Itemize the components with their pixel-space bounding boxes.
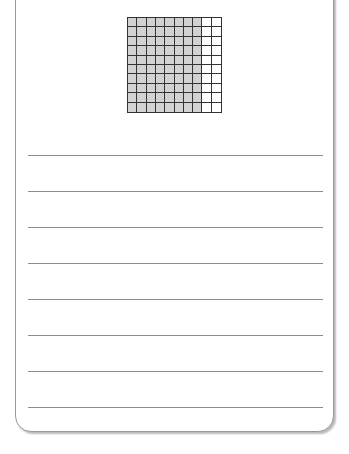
grid-cell-shaded <box>156 65 165 74</box>
grid-cell-shaded <box>128 18 137 27</box>
grid-cell-shaded <box>193 27 202 36</box>
grid-cell-shaded <box>147 56 156 65</box>
grid-cell-shaded <box>147 27 156 36</box>
grid-cell-shaded <box>175 103 184 112</box>
writing-line <box>28 371 323 372</box>
writing-line <box>28 335 323 336</box>
grid-cell-shaded <box>128 93 137 102</box>
grid-cell-shaded <box>184 56 193 65</box>
hundred-grid <box>127 17 222 113</box>
grid-cell-shaded <box>165 46 174 55</box>
grid-cell-shaded <box>156 84 165 93</box>
grid-cell-shaded <box>147 84 156 93</box>
grid-cell-shaded <box>147 65 156 74</box>
grid-cell-empty <box>212 74 221 83</box>
grid-cell-shaded <box>193 65 202 74</box>
grid-cell-shaded <box>137 37 146 46</box>
grid-cell-shaded <box>128 84 137 93</box>
grid-cell-empty <box>212 56 221 65</box>
grid-cell-shaded <box>156 103 165 112</box>
grid-cell-shaded <box>184 65 193 74</box>
grid-cell-empty <box>212 27 221 36</box>
grid-cell-shaded <box>156 37 165 46</box>
grid-cell-shaded <box>175 93 184 102</box>
grid-cell-shaded <box>137 46 146 55</box>
writing-line <box>28 299 323 300</box>
grid-cell-shaded <box>175 56 184 65</box>
grid-cell-shaded <box>165 74 174 83</box>
grid-cell-shaded <box>147 93 156 102</box>
grid-cell-shaded <box>156 18 165 27</box>
grid-cell-shaded <box>128 56 137 65</box>
grid-cell-shaded <box>184 27 193 36</box>
grid-cell-shaded <box>193 56 202 65</box>
grid-cell-shaded <box>128 65 137 74</box>
grid-cell-shaded <box>193 93 202 102</box>
grid-cell-shaded <box>175 27 184 36</box>
grid-cell-shaded <box>184 46 193 55</box>
grid-cell-shaded <box>165 103 174 112</box>
grid-cell-shaded <box>193 18 202 27</box>
grid-cell-empty <box>212 93 221 102</box>
writing-line <box>28 191 323 192</box>
grid-cell-shaded <box>137 27 146 36</box>
writing-line <box>28 407 323 408</box>
grid-cell-empty <box>202 56 211 65</box>
grid-cell-shaded <box>147 103 156 112</box>
grid-cell-shaded <box>128 27 137 36</box>
grid-cell-shaded <box>165 65 174 74</box>
grid-cell-empty <box>212 103 221 112</box>
grid-cell-empty <box>202 74 211 83</box>
grid-cell-shaded <box>156 27 165 36</box>
grid-cell-shaded <box>165 84 174 93</box>
grid-cell-shaded <box>156 46 165 55</box>
grid-cell-shaded <box>128 103 137 112</box>
grid-cell-shaded <box>137 65 146 74</box>
grid-cell-shaded <box>137 74 146 83</box>
grid-cell-shaded <box>184 74 193 83</box>
grid-cell-shaded <box>128 46 137 55</box>
grid-cell-empty <box>212 65 221 74</box>
grid-cell-shaded <box>165 56 174 65</box>
grid-cell-shaded <box>193 103 202 112</box>
grid-cell-shaded <box>147 18 156 27</box>
grid-cell-shaded <box>175 37 184 46</box>
grid-cell-shaded <box>147 37 156 46</box>
grid-cell-shaded <box>128 37 137 46</box>
grid-cell-shaded <box>137 93 146 102</box>
grid-cell-shaded <box>156 74 165 83</box>
grid-cell-shaded <box>184 93 193 102</box>
grid-cell-empty <box>202 84 211 93</box>
grid-cell-empty <box>212 46 221 55</box>
grid-cell-shaded <box>137 56 146 65</box>
grid-cell-shaded <box>184 103 193 112</box>
grid-cell-shaded <box>193 46 202 55</box>
grid-cell-shaded <box>193 37 202 46</box>
grid-cell-empty <box>202 65 211 74</box>
writing-line <box>28 155 323 156</box>
grid-cell-shaded <box>137 84 146 93</box>
writing-line <box>28 227 323 228</box>
grid-cell-shaded <box>175 74 184 83</box>
grid-cell-shaded <box>147 46 156 55</box>
grid-cell-shaded <box>184 18 193 27</box>
grid-cell-shaded <box>175 65 184 74</box>
grid-cell-shaded <box>165 18 174 27</box>
grid-cell-shaded <box>165 37 174 46</box>
writing-line <box>28 263 323 264</box>
grid-cell-empty <box>212 84 221 93</box>
grid-cell-empty <box>202 103 211 112</box>
grid-cell-shaded <box>137 18 146 27</box>
grid-cell-shaded <box>156 56 165 65</box>
grid-cell-shaded <box>128 74 137 83</box>
grid-cell-shaded <box>156 93 165 102</box>
grid-cell-empty <box>202 46 211 55</box>
grid-cell-shaded <box>165 27 174 36</box>
grid-cell-shaded <box>184 84 193 93</box>
grid-cell-empty <box>212 37 221 46</box>
grid-cell-shaded <box>147 74 156 83</box>
grid-cell-empty <box>202 27 211 36</box>
grid-cell-shaded <box>184 37 193 46</box>
grid-cell-empty <box>202 18 211 27</box>
grid-cell-shaded <box>137 103 146 112</box>
